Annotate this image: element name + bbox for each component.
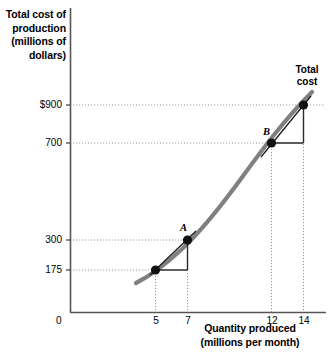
y-axis-title-line-2: production bbox=[0, 22, 66, 36]
data-point-14-900 bbox=[299, 100, 308, 109]
y-tick-label-300: 300 bbox=[16, 234, 62, 245]
data-point-b bbox=[267, 138, 276, 147]
secant-lines bbox=[150, 96, 311, 275]
data-point-5-175 bbox=[151, 265, 160, 274]
y-axis-title-line-1: Total cost of bbox=[0, 8, 66, 22]
vertical-gridlines bbox=[156, 105, 304, 312]
x-tick-label-12: 12 bbox=[257, 315, 287, 326]
data-point-markers bbox=[151, 100, 308, 274]
data-point-a bbox=[183, 235, 192, 244]
point-label-b: B bbox=[263, 126, 270, 137]
cost-curve-chart: Total cost of production (millions of do… bbox=[0, 0, 332, 361]
y-axis-title-line-4: dollars) bbox=[0, 49, 66, 63]
y-tick-label-900: $900 bbox=[16, 99, 62, 110]
y-tick-label-175: 175 bbox=[16, 264, 62, 275]
total-cost-curve bbox=[136, 92, 312, 283]
x-axis-title-line-2: (millions per month) bbox=[170, 336, 330, 350]
horizontal-gridlines bbox=[70, 105, 325, 270]
origin-label: 0 bbox=[56, 315, 62, 326]
y-axis-title-line-3: (millions of bbox=[0, 35, 66, 49]
y-axis-title: Total cost of production (millions of do… bbox=[0, 8, 66, 62]
x-tick-label-5: 5 bbox=[141, 315, 171, 326]
point-label-a: A bbox=[180, 222, 187, 233]
x-tick-label-7: 7 bbox=[173, 315, 203, 326]
y-tick-label-700: 700 bbox=[16, 137, 62, 148]
x-tick-label-14: 14 bbox=[289, 315, 319, 326]
curve-label-line-1: Total bbox=[285, 64, 329, 76]
y-axis-ticks bbox=[66, 105, 70, 270]
total-cost-curve-label: Total cost bbox=[285, 64, 329, 88]
curve-label-line-2: cost bbox=[285, 76, 329, 88]
x-axis-title: Quantity produced (millions per month) bbox=[170, 322, 330, 349]
